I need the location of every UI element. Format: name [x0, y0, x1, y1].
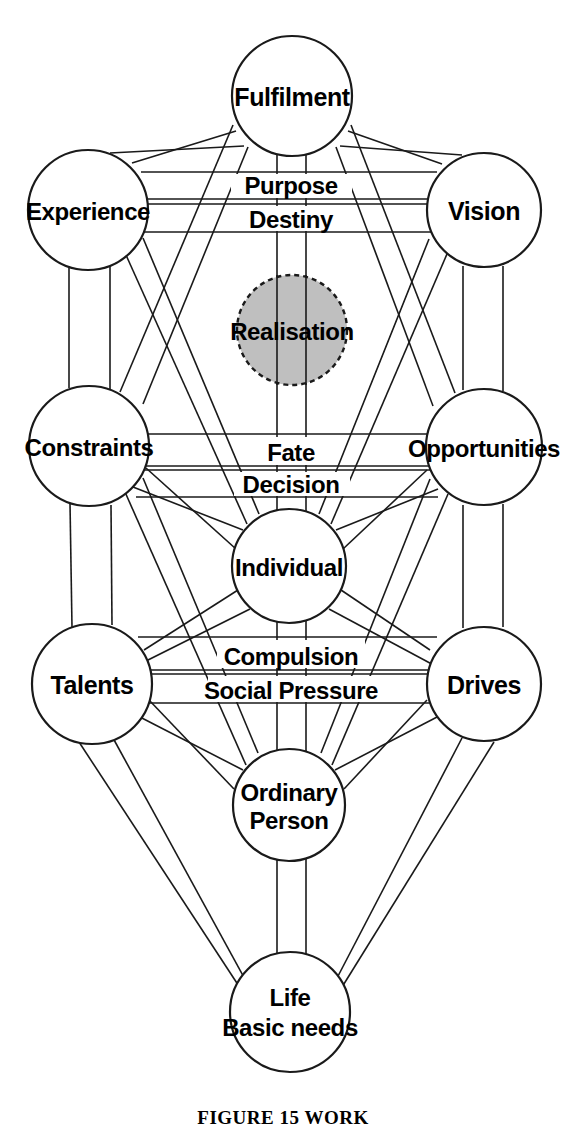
talents-label: Talents — [51, 671, 134, 699]
node-drives[interactable]: Drives — [427, 627, 541, 741]
edge-constraints-talents-a — [70, 503, 72, 627]
node-ordinary-person[interactable]: Ordinary Person — [233, 749, 345, 861]
opportunities-label: Opportunities — [408, 435, 560, 462]
ordinary-person-label-line1: Ordinary — [241, 779, 339, 806]
edge-fulfilment-constraints-a — [120, 125, 233, 392]
node-fulfilment[interactable]: Fulfilment — [232, 36, 352, 156]
edge-drives-life-a — [334, 742, 494, 1000]
life-basic-needs-label-line2: Basic needs — [222, 1014, 358, 1041]
path-label-purpose: Purpose — [231, 172, 352, 199]
edge-opportunities-individual-a — [336, 489, 438, 530]
path-labels-layer: Purpose Destiny Fate Decision Compulsion — [204, 172, 378, 704]
experience-label: Experience — [26, 198, 150, 225]
edge-drives-life-b — [324, 738, 462, 1003]
edge-talents-ordinary-b — [149, 700, 234, 789]
edge-fulfilment-vision-a — [340, 146, 462, 155]
tree-of-life-diagram: Realisation Fulfilment Experience Vision… — [0, 0, 567, 1128]
edge-drives-ordinary-b — [344, 700, 427, 789]
edge-opportunities-ordinary-a — [332, 494, 448, 765]
destiny-label: Destiny — [249, 206, 334, 233]
edge-opportunities-ordinary-b — [321, 479, 430, 753]
compulsion-label: Compulsion — [224, 643, 359, 670]
path-label-social-pressure: Social Pressure — [204, 676, 378, 704]
drives-label: Drives — [447, 671, 521, 699]
edge-constraints-ordinary-a — [125, 492, 246, 765]
node-opportunities[interactable]: Opportunities — [408, 389, 560, 505]
decision-label: Decision — [243, 471, 340, 498]
node-experience[interactable]: Experience — [26, 150, 150, 270]
edge-constraints-individual-b — [146, 468, 236, 549]
edge-talents-life-a — [79, 742, 248, 1000]
individual-label: Individual — [235, 554, 343, 581]
life-basic-needs-label-line1: Life — [269, 984, 310, 1011]
node-vision[interactable]: Vision — [427, 153, 541, 267]
vision-label: Vision — [448, 197, 520, 225]
edge-talents-life-b — [113, 738, 258, 1003]
constraints-label: Constraints — [25, 434, 154, 461]
ordinary-person-label-line2: Person — [250, 807, 329, 834]
path-label-decision: Decision — [234, 471, 350, 498]
fate-label: Fate — [267, 439, 315, 466]
figure-caption-text: FIGURE 15 WORK — [197, 1107, 368, 1128]
path-label-compulsion: Compulsion — [217, 640, 365, 670]
figure-caption: FIGURE 15 WORK — [197, 1107, 368, 1128]
life-basic-needs-circle[interactable] — [230, 952, 350, 1072]
purpose-label: Purpose — [244, 172, 337, 199]
node-realisation[interactable]: Realisation — [230, 275, 354, 385]
edge-opportunities-individual-b — [343, 470, 427, 549]
edge-experience-individual-a — [126, 255, 247, 524]
diagram-canvas: Realisation Fulfilment Experience Vision… — [0, 0, 567, 1128]
realisation-label: Realisation — [230, 318, 354, 345]
path-label-fate: Fate — [252, 437, 331, 466]
edge-constraints-talents-b — [111, 505, 112, 625]
node-talents[interactable]: Talents — [32, 624, 152, 744]
edge-fulfilment-opportunities-a — [351, 125, 455, 393]
path-label-destiny: Destiny — [233, 206, 350, 233]
node-individual[interactable]: Individual — [232, 509, 346, 623]
fulfilment-label: Fulfilment — [234, 83, 351, 111]
node-life-basic-needs[interactable]: Life Basic needs — [222, 952, 358, 1072]
social-pressure-label: Social Pressure — [204, 677, 378, 704]
